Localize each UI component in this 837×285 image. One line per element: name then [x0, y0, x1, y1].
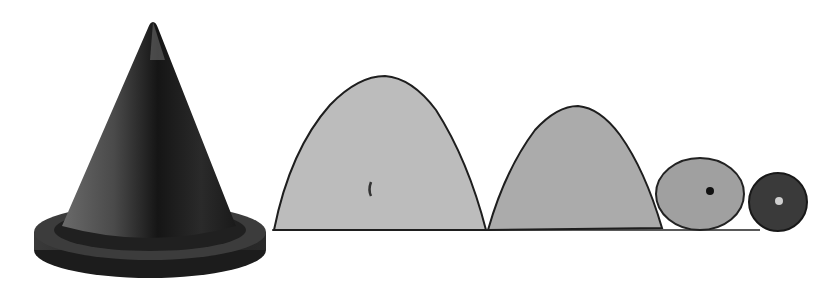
cone: [34, 22, 266, 278]
ellipse-section: [656, 158, 744, 230]
large-parabola-section: [274, 76, 486, 230]
conic-sections-image: [0, 0, 837, 285]
small-parabola-section: [488, 106, 662, 230]
